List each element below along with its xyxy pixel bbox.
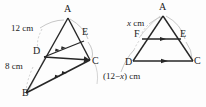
vertex-label-b-left: B [22, 88, 29, 98]
measure-label-ad: 12 cm [11, 24, 33, 33]
measure-label-af: x cm [127, 19, 144, 28]
vertex-label-e-right: E [180, 29, 186, 39]
leader-arc-ad [40, 20, 64, 28]
arc-ec-right [186, 42, 192, 59]
vertex-label-f-right: F [134, 29, 140, 39]
vertex-label-d-left: D [33, 46, 40, 56]
measure-label-fd: (12−x) cm [103, 72, 140, 81]
arrow-mark-fe [160, 37, 166, 41]
vertex-label-c-right: C [194, 56, 201, 66]
geometry-figure: A B C D E 12 cm 8 cm A F E D C x cm (12−… [0, 0, 206, 107]
vertex-label-a-left: A [64, 4, 71, 14]
vertex-label-c-left: C [92, 56, 99, 66]
vertex-label-e-left: E [82, 27, 88, 37]
segment-dc [44, 57, 90, 60]
figure-drawing-surface [0, 0, 206, 107]
leader-dash-fd [134, 41, 139, 50]
measure-label-db: 8 cm [5, 62, 23, 71]
arrow-mark-dc-right [161, 59, 168, 63]
vertex-label-d-right: D [125, 57, 132, 67]
vertex-label-a-right: A [159, 2, 166, 12]
segment-ac [68, 18, 90, 60]
